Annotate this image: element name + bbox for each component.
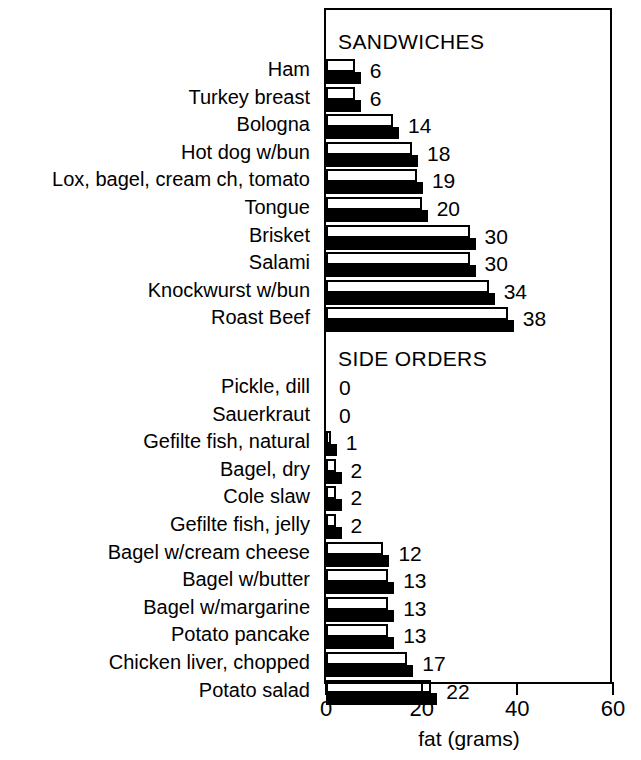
bar-pair: [326, 197, 422, 223]
bar-row-label: Sauerkraut: [0, 404, 316, 424]
bar-pair: [326, 597, 388, 623]
bar-row: Brisket30: [0, 225, 641, 252]
bar-segment-bottom: [326, 555, 389, 567]
bar-row-label: Tongue: [0, 197, 316, 217]
x-axis-tick: [516, 684, 518, 695]
bar-pair: [326, 486, 336, 512]
bar-segment-top: [326, 87, 355, 100]
x-axis-tick-label: 60: [583, 698, 641, 720]
bar-row-label: Gefilte fish, natural: [0, 431, 316, 451]
bar-value-label: 17: [422, 653, 445, 674]
bar-segment-bottom: [326, 238, 476, 250]
bar-value-label: 12: [398, 543, 421, 564]
bar-segment-top: [326, 59, 355, 72]
bar-segment-bottom: [326, 72, 361, 84]
bar-row-label: Gefilte fish, jelly: [0, 514, 316, 534]
fat-content-bar-chart: SANDWICHES SIDE ORDERS Ham6Turkey breast…: [0, 0, 641, 760]
bar-segment-top: [326, 486, 336, 499]
bar-pair: [326, 431, 331, 457]
bar-row: Turkey breast6: [0, 87, 641, 114]
bar-row-label: Bagel w/cream cheese: [0, 542, 316, 562]
bar-pair: [326, 652, 407, 678]
bar-row: Salami30: [0, 252, 641, 279]
bar-row-label: Roast Beef: [0, 307, 316, 327]
bar-row: Knockwurst w/bun34: [0, 280, 641, 307]
bar-segment-top: [326, 514, 336, 527]
bar-pair: [326, 569, 388, 595]
bar-segment-bottom: [326, 265, 476, 277]
bar-row-label: Knockwurst w/bun: [0, 280, 316, 300]
bar-segment-top: [326, 597, 388, 610]
bar-row-label: Bagel w/butter: [0, 569, 316, 589]
bar-segment-top: [326, 542, 383, 555]
bar-segment-bottom: [326, 637, 394, 649]
bar-row-label: Lox, bagel, cream ch, tomato: [0, 169, 316, 189]
bar-segment-top: [326, 280, 489, 293]
bar-segment-top: [326, 652, 407, 665]
bar-row: Tongue20: [0, 197, 641, 224]
bar-segment-bottom: [326, 527, 342, 539]
x-axis-line: [324, 682, 614, 684]
bar-segment-bottom: [326, 100, 361, 112]
bar-segment-top: [326, 169, 417, 182]
bar-row: Bagel, dry2: [0, 459, 641, 486]
bar-row: Bologna14: [0, 114, 641, 141]
bar-segment-bottom: [326, 582, 394, 594]
bar-pair: [326, 542, 383, 568]
bar-row: Potato pancake13: [0, 624, 641, 651]
bar-segment-top: [326, 142, 412, 155]
bar-row-label: Hot dog w/bun: [0, 142, 316, 162]
bar-segment-bottom: [326, 155, 418, 167]
bar-value-label: 2: [351, 460, 363, 481]
bar-segment-top: [326, 114, 393, 127]
bar-segment-top: [326, 252, 470, 265]
bar-value-label: 13: [403, 598, 426, 619]
bar-value-label: 30: [485, 253, 508, 274]
bar-value-label: 14: [408, 115, 431, 136]
bar-row-label: Potato pancake: [0, 624, 316, 644]
bar-segment-bottom: [326, 210, 428, 222]
bar-row-label: Ham: [0, 59, 316, 79]
bar-pair: [326, 169, 417, 195]
section-title-side-orders: SIDE ORDERS: [338, 348, 487, 369]
bar-pair: [326, 87, 355, 113]
bar-segment-bottom: [326, 472, 342, 484]
bar-pair: [326, 225, 470, 251]
bar-segment-bottom: [326, 444, 337, 456]
bar-row-label: Potato salad: [0, 680, 316, 700]
bar-segment-top: [326, 307, 508, 320]
bar-row: Hot dog w/bun18: [0, 142, 641, 169]
bar-value-label: 2: [351, 515, 363, 536]
bar-row: Cole slaw2: [0, 486, 641, 513]
bar-value-label: 6: [370, 88, 382, 109]
bar-pair: [326, 252, 470, 278]
bar-row: Roast Beef38: [0, 307, 641, 334]
bar-row-label: Pickle, dill: [0, 376, 316, 396]
bar-value-label: 19: [432, 170, 455, 191]
bar-pair: [326, 307, 508, 333]
bar-row-label: Bologna: [0, 114, 316, 134]
bar-segment-bottom: [326, 182, 423, 194]
bar-pair: [326, 459, 336, 485]
bar-pair: [326, 514, 336, 540]
bar-pair: [326, 142, 412, 168]
bar-value-label: 13: [403, 570, 426, 591]
bar-segment-top: [326, 197, 422, 210]
bar-row: Lox, bagel, cream ch, tomato19: [0, 169, 641, 196]
bar-segment-bottom: [326, 665, 413, 677]
bar-row: Bagel w/cream cheese12: [0, 542, 641, 569]
bar-row-label: Chicken liver, chopped: [0, 652, 316, 672]
bar-value-label: 20: [437, 198, 460, 219]
bar-value-label: 30: [485, 226, 508, 247]
x-axis-tick-label: 40: [487, 698, 547, 720]
bar-pair: [326, 280, 489, 306]
bar-row-label: Salami: [0, 252, 316, 272]
x-axis-tick: [325, 684, 327, 695]
bar-row: Gefilte fish, natural1: [0, 431, 641, 458]
bar-segment-top: [326, 431, 331, 444]
section-title-sandwiches: SANDWICHES: [338, 31, 484, 52]
bar-row: Bagel w/margarine13: [0, 597, 641, 624]
bar-row: Chicken liver, chopped17: [0, 652, 641, 679]
bar-segment-bottom: [326, 499, 342, 511]
bar-segment-top: [326, 459, 336, 472]
